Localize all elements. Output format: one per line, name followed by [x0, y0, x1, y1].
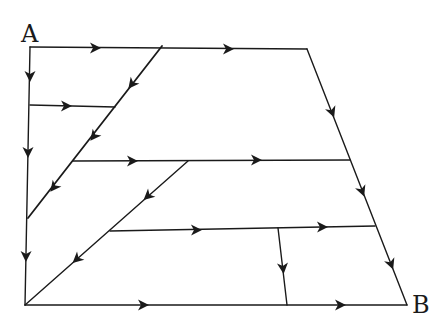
arrow-down-right-icon	[384, 257, 398, 271]
lower-crossbar	[110, 226, 375, 231]
lower-diagonal	[25, 161, 188, 305]
upper-diagonal	[28, 46, 162, 218]
arrow-down-icon	[277, 262, 289, 274]
edges	[25, 46, 407, 305]
top-edge	[30, 47, 307, 49]
left-edge	[25, 47, 30, 305]
sink-node-label: B	[412, 291, 430, 319]
arrow-down-right-icon	[355, 184, 369, 198]
middle-crossbar	[73, 160, 350, 161]
upper-crossbar	[30, 105, 115, 107]
source-node-label: A	[20, 20, 39, 48]
arrows	[20, 43, 398, 311]
flow-network-diagram: A B	[0, 0, 439, 336]
arrow-down-right-icon	[325, 105, 339, 119]
